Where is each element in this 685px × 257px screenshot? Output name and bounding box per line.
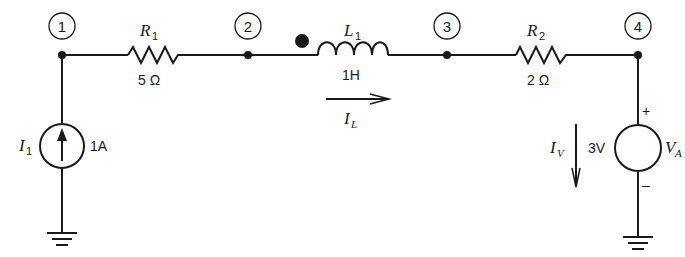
il-symbol: I bbox=[343, 109, 351, 128]
va-value: 3V bbox=[588, 140, 606, 156]
node-1: 1 bbox=[49, 13, 75, 59]
current-il: I L bbox=[326, 94, 389, 130]
iv-subscript: V bbox=[557, 147, 565, 159]
l1-subscript: 1 bbox=[355, 30, 361, 42]
r2-subscript: 2 bbox=[539, 30, 545, 42]
r1-value: 5 Ω bbox=[138, 72, 160, 88]
i1-symbol: I bbox=[18, 136, 26, 155]
inductor-l1: L 1 1H bbox=[295, 21, 388, 83]
va-plus-sign: + bbox=[642, 103, 650, 119]
iv-symbol: I bbox=[549, 138, 557, 157]
current-source-i1: I 1 1A bbox=[18, 55, 108, 232]
node-2: 2 bbox=[235, 13, 261, 59]
r1-symbol: R bbox=[139, 21, 151, 40]
node-2-junction bbox=[244, 51, 252, 59]
resistor-zigzag-icon bbox=[516, 47, 568, 63]
node-4-label: 4 bbox=[634, 18, 642, 35]
polarity-dot-icon bbox=[295, 34, 309, 48]
node-3: 3 bbox=[434, 13, 460, 59]
ground-right-icon bbox=[623, 237, 653, 249]
va-minus-sign: – bbox=[642, 177, 650, 193]
node-4: 4 bbox=[625, 13, 651, 59]
resistor-r1: R 1 5 Ω bbox=[128, 21, 180, 88]
r2-value: 2 Ω bbox=[527, 72, 549, 88]
ground-left-icon bbox=[47, 233, 77, 245]
r1-subscript: 1 bbox=[152, 30, 158, 42]
node-3-junction bbox=[443, 51, 451, 59]
l1-value: 1H bbox=[342, 67, 360, 83]
inductor-coil-icon bbox=[318, 42, 388, 55]
i1-value: 1A bbox=[90, 138, 108, 154]
voltage-source-va: + – 3V V A bbox=[588, 55, 682, 236]
node-3-label: 3 bbox=[443, 18, 451, 35]
arrowhead-up-icon bbox=[57, 128, 67, 141]
i1-subscript: 1 bbox=[26, 145, 32, 157]
va-subscript: A bbox=[674, 147, 682, 159]
resistor-r2: R 2 2 Ω bbox=[516, 21, 568, 88]
node-1-label: 1 bbox=[58, 18, 66, 35]
il-subscript: L bbox=[350, 118, 357, 130]
l1-symbol: L bbox=[343, 21, 353, 40]
voltage-source-circle-icon bbox=[615, 125, 661, 171]
r2-symbol: R bbox=[526, 21, 538, 40]
circuit-diagram: 1 2 3 4 R 1 5 Ω L 1 1H I L bbox=[0, 0, 685, 257]
current-iv: I V bbox=[549, 124, 580, 187]
resistor-zigzag-icon bbox=[128, 47, 180, 63]
node-2-label: 2 bbox=[244, 18, 252, 35]
